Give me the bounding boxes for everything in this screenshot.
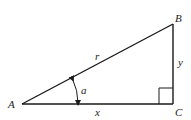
right-triangle-diagram: A B C r y x a bbox=[0, 0, 191, 120]
vertex-label-b: B bbox=[175, 12, 182, 24]
angle-arc-a bbox=[73, 79, 79, 103]
side-label-r: r bbox=[95, 50, 100, 62]
side-label-y: y bbox=[177, 56, 183, 68]
hypotenuse-r bbox=[22, 24, 173, 104]
angle-label-a: a bbox=[81, 84, 87, 96]
side-label-x: x bbox=[94, 106, 100, 118]
right-angle-marker bbox=[159, 88, 173, 104]
vertex-label-a: A bbox=[7, 98, 15, 110]
vertex-label-c: C bbox=[175, 106, 183, 118]
